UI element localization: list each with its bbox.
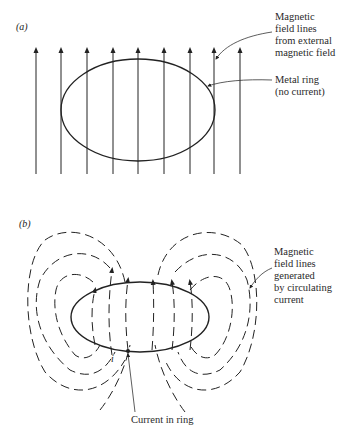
- panel-label-a: (a): [16, 21, 28, 32]
- external-field-lines: [36, 50, 240, 174]
- induced-field-lines: [28, 232, 257, 412]
- callout-induced-field: Magnetic field lines generated by circul…: [274, 246, 332, 306]
- callout-external-field: Magnetic field lines from external magne…: [275, 11, 335, 59]
- current-point: [126, 349, 130, 353]
- leader-field-lines-b: [250, 268, 272, 288]
- callout-current-in-ring: Current in ring: [131, 414, 193, 426]
- panel-label-b: (b): [19, 218, 31, 229]
- current-symbol: i: [111, 353, 114, 364]
- diagram-canvas: [0, 0, 353, 434]
- leader-field-lines-a: [216, 32, 272, 59]
- leader-current-in-ring: [128, 354, 135, 412]
- callout-metal-ring: Metal ring (no current): [275, 74, 325, 98]
